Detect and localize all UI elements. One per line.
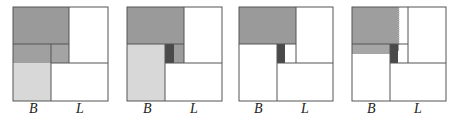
label-L: L [190,101,198,117]
panel-2-drawing [115,0,231,121]
panel-4-drawing [345,0,461,121]
label-L: L [414,101,422,117]
label-B: B [367,101,376,117]
label-B: B [254,101,263,117]
label-L: L [301,101,309,117]
diagram-panel-3: B L [230,0,346,121]
label-B: B [143,101,152,117]
diagram-panel-1: B L [0,0,116,121]
diagram-panel-4: B L [345,0,461,121]
label-B: B [29,101,38,117]
panel-1-drawing [0,0,116,121]
panel-3-drawing [230,0,346,121]
label-L: L [76,101,84,117]
diagram-panel-2: B L [115,0,231,121]
